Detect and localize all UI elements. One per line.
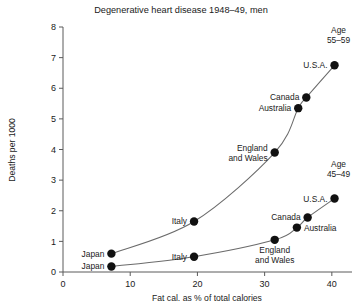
- x-tick-label: 20: [192, 279, 202, 289]
- y-tick-label: 6: [51, 83, 56, 93]
- data-point[interactable]: [302, 93, 310, 101]
- data-point[interactable]: [330, 61, 338, 69]
- data-point[interactable]: [303, 213, 311, 221]
- point-label: Italy: [172, 252, 188, 262]
- point-label: Italy: [172, 216, 188, 226]
- y-tick-label: 8: [51, 22, 56, 32]
- point-label: Australia: [259, 103, 292, 113]
- x-axis-ticks: 010203040: [60, 272, 336, 289]
- chart-container: Degenerative heart disease 1948–49, men …: [0, 0, 362, 307]
- heart-disease-scatter-chart: Degenerative heart disease 1948–49, men …: [0, 0, 362, 307]
- series-labels: Age55–59Age45–49: [327, 25, 351, 178]
- data-points: [107, 61, 339, 271]
- data-point[interactable]: [190, 217, 198, 225]
- trend-curve-2: [111, 199, 334, 267]
- series-label-1: Age55–59: [327, 25, 351, 45]
- data-point[interactable]: [271, 148, 279, 156]
- x-tick-label: 40: [327, 279, 337, 289]
- data-point[interactable]: [107, 262, 115, 270]
- y-tick-label: 1: [51, 237, 56, 247]
- point-label: Canada: [271, 212, 301, 222]
- y-tick-label: 2: [51, 206, 56, 216]
- data-point[interactable]: [294, 104, 302, 112]
- point-label: Englandand Wales: [255, 245, 294, 265]
- data-point[interactable]: [293, 223, 301, 231]
- point-labels: JapanItalyEnglandand WalesAustraliaCanad…: [82, 60, 337, 271]
- data-point[interactable]: [271, 236, 279, 244]
- x-tick-label: 0: [60, 279, 65, 289]
- y-tick-label: 3: [51, 175, 56, 185]
- y-axis: 012345678 Deaths per 1000: [7, 22, 63, 277]
- point-label: U.S.A.: [303, 194, 327, 204]
- y-tick-label: 7: [51, 53, 56, 63]
- trend-curve-1: [111, 65, 334, 253]
- point-label: Australia: [304, 223, 337, 233]
- y-tick-label: 0: [51, 267, 56, 277]
- point-label: Japan: [82, 249, 105, 259]
- y-axis-ticks: 012345678: [51, 22, 63, 277]
- chart-title: Degenerative heart disease 1948–49, men: [94, 5, 268, 15]
- data-point[interactable]: [107, 249, 115, 257]
- point-label: Englandand Wales: [228, 143, 268, 163]
- data-point[interactable]: [190, 252, 198, 260]
- point-label: U.S.A.: [303, 60, 327, 70]
- x-tick-label: 10: [125, 279, 135, 289]
- data-point[interactable]: [330, 194, 338, 202]
- point-label: Japan: [82, 261, 105, 271]
- y-tick-label: 4: [51, 145, 56, 155]
- x-axis: 010203040 Fat cal. as % of total calorie…: [60, 272, 352, 303]
- trend-curves: [111, 65, 334, 266]
- series-label-2: Age45–49: [327, 159, 351, 179]
- x-axis-title: Fat cal. as % of total calories: [152, 293, 262, 303]
- x-tick-label: 30: [260, 279, 270, 289]
- y-tick-label: 5: [51, 114, 56, 124]
- y-axis-title: Deaths per 1000: [7, 118, 17, 182]
- point-label: Canada: [270, 92, 300, 102]
